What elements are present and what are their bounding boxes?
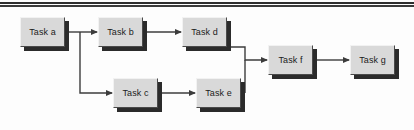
node-task-f[interactable]: Task f <box>268 45 313 75</box>
node-task-b[interactable]: Task b <box>98 17 143 47</box>
node-task-g[interactable]: Task g <box>350 45 395 75</box>
node-task-e-label: Task e <box>205 89 232 98</box>
node-task-e[interactable]: Task e <box>196 78 241 108</box>
diagram-canvas: Task a Task b Task d Task c Task e Task … <box>0 0 414 130</box>
edge-task-d-to-task-f <box>231 47 267 60</box>
node-task-d-label: Task d <box>191 28 218 37</box>
node-task-g-label: Task g <box>359 56 386 65</box>
node-task-a[interactable]: Task a <box>20 17 65 47</box>
node-task-a-label: Task a <box>29 28 56 37</box>
node-task-d[interactable]: Task d <box>182 17 227 47</box>
node-task-c[interactable]: Task c <box>113 78 158 108</box>
node-task-c-label: Task c <box>122 89 148 98</box>
node-task-b-label: Task b <box>107 28 134 37</box>
node-task-f-label: Task f <box>278 56 302 65</box>
